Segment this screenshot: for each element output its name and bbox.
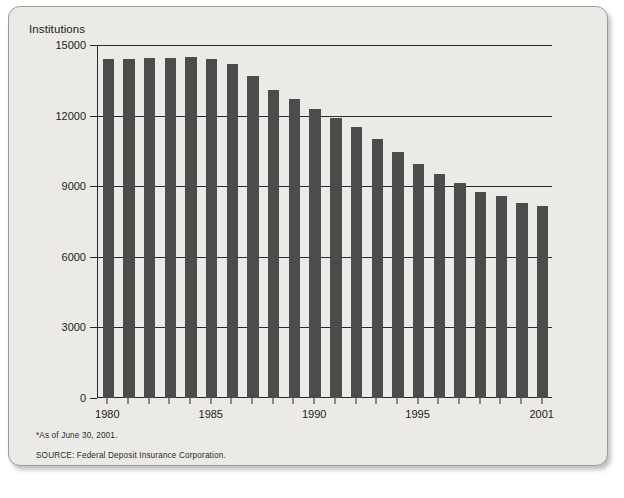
- x-tick-1998: [479, 398, 480, 404]
- y-axis-label-15000: 15000: [55, 39, 86, 51]
- x-tick-1984: [190, 398, 191, 404]
- footnote-source: SOURCE: Federal Deposit Insurance Corpor…: [36, 451, 226, 460]
- x-axis-label-1985: 1985: [199, 408, 223, 420]
- bar-1981: [123, 59, 134, 398]
- y-tick-9000: [90, 186, 97, 187]
- chart-panel: Institutions 03000600090001200015000 198…: [8, 6, 608, 466]
- plot-area: 03000600090001200015000 1980198519901995…: [97, 45, 552, 398]
- x-tick-1995: [417, 398, 418, 404]
- bar-series: [98, 45, 552, 398]
- bar-1997: [454, 183, 465, 398]
- x-tick-1997: [458, 398, 459, 404]
- x-tick-1987: [252, 398, 253, 404]
- bar-1985: [206, 59, 217, 398]
- bar-2001: [537, 206, 548, 398]
- screenshot-root: Institutions 03000600090001200015000 198…: [0, 0, 624, 498]
- bar-1999: [496, 196, 507, 398]
- bar-1983: [165, 58, 176, 398]
- footnote-asof: *As of June 30, 2001.: [36, 431, 117, 440]
- x-tick-2000: [520, 398, 521, 404]
- x-axis-label-1980: 1980: [95, 408, 119, 420]
- x-axis-label-1990: 1990: [302, 408, 326, 420]
- bar-1980: [103, 59, 114, 398]
- y-axis-label-3000: 3000: [62, 321, 86, 333]
- x-tick-1983: [169, 398, 170, 404]
- x-axis-label-2001: 2001: [529, 408, 553, 420]
- page-title: Institutions: [29, 23, 85, 35]
- x-axis-label-1995: 1995: [405, 408, 429, 420]
- x-tick-1985: [210, 398, 211, 404]
- x-tick-1992: [355, 398, 356, 404]
- y-axis-label-6000: 6000: [62, 251, 86, 263]
- x-tick-1991: [334, 398, 335, 404]
- x-tick-1999: [500, 398, 501, 404]
- bar-1994: [392, 152, 403, 398]
- x-tick-1986: [231, 398, 232, 404]
- y-axis-label-12000: 12000: [55, 110, 86, 122]
- bar-1990: [309, 109, 320, 398]
- x-tick-1990: [314, 398, 315, 404]
- x-tick-2001: [541, 398, 542, 404]
- bar-1993: [372, 139, 383, 398]
- bar-1991: [330, 118, 341, 398]
- bar-1982: [144, 58, 155, 398]
- bar-2000: [516, 203, 527, 398]
- bar-1988: [268, 90, 279, 398]
- bar-1998: [475, 192, 486, 398]
- y-axis-label-0: 0: [80, 392, 86, 404]
- y-axis-label-9000: 9000: [62, 180, 86, 192]
- bar-1995: [413, 164, 424, 398]
- y-tick-0: [90, 398, 97, 399]
- x-tick-1980: [107, 398, 108, 404]
- y-tick-6000: [90, 257, 97, 258]
- x-tick-1981: [128, 398, 129, 404]
- bar-1992: [351, 127, 362, 398]
- x-tick-1989: [293, 398, 294, 404]
- x-tick-1993: [376, 398, 377, 404]
- x-tick-1994: [396, 398, 397, 404]
- x-tick-1996: [438, 398, 439, 404]
- y-tick-12000: [90, 116, 97, 117]
- bar-1989: [289, 99, 300, 398]
- y-tick-3000: [90, 327, 97, 328]
- x-tick-1988: [272, 398, 273, 404]
- x-tick-1982: [148, 398, 149, 404]
- bar-1984: [185, 57, 196, 398]
- bar-1996: [434, 174, 445, 398]
- bar-1986: [227, 64, 238, 398]
- y-tick-15000: [90, 45, 97, 46]
- bar-1987: [247, 76, 258, 398]
